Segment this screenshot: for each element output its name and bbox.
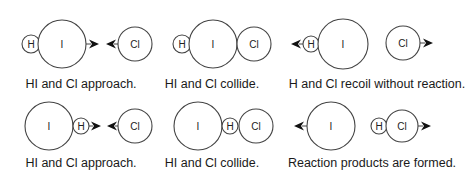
- arrow-left-icon: [291, 40, 303, 49]
- atom-label: H: [27, 39, 34, 50]
- atom-label: Cl: [249, 39, 258, 50]
- panel-caption: H and Cl recoil without reaction.: [289, 77, 465, 91]
- atom-i: I: [25, 102, 73, 150]
- row-unfavorable-orientation: HIClHI and Cl approach.HIClHI and Cl col…: [22, 19, 465, 91]
- arrow-right-icon: [86, 40, 99, 49]
- atom-label: I: [197, 121, 200, 132]
- atom-cl: Cl: [239, 109, 273, 143]
- panel-caption: Reaction products are formed.: [288, 156, 456, 170]
- arrow-left-icon: [106, 40, 118, 49]
- panel-caption: HI and Cl collide.: [165, 77, 260, 91]
- atom-h: H: [222, 118, 238, 134]
- arrow-right-icon: [418, 122, 431, 131]
- atom-i: I: [189, 20, 237, 68]
- atom-label: Cl: [398, 38, 407, 49]
- atom-label: Cl: [130, 39, 139, 50]
- atom-label: I: [48, 121, 51, 132]
- panel: HIClHI and Cl collide.: [165, 20, 271, 91]
- atom-cl: Cl: [118, 27, 152, 61]
- arrow-left-icon: [294, 122, 307, 131]
- atom-i: I: [38, 20, 86, 68]
- atom-cl: Cl: [118, 109, 152, 143]
- atom-label: H: [307, 39, 314, 50]
- atom-label: I: [61, 39, 64, 50]
- atom-label: I: [342, 39, 345, 50]
- panel: IHClReaction products are formed.: [288, 102, 456, 170]
- panel: HIClHI and Cl approach.: [22, 20, 152, 91]
- atom-i: I: [307, 102, 355, 150]
- atom-label: H: [178, 39, 185, 50]
- atom-label: H: [226, 121, 233, 132]
- atom-h: H: [173, 35, 191, 53]
- panel-caption: HI and Cl approach.: [25, 77, 136, 91]
- atom-h: H: [371, 118, 387, 134]
- atom-i: I: [174, 102, 222, 150]
- atom-label: I: [212, 39, 215, 50]
- atom-label: H: [77, 121, 84, 132]
- atom-i: I: [318, 19, 368, 69]
- panel-caption: HI and Cl approach.: [25, 156, 136, 170]
- arrow-right-icon: [420, 39, 433, 48]
- atom-cl: Cl: [386, 26, 420, 60]
- atom-h: H: [303, 36, 319, 52]
- panel: HIClH and Cl recoil without reaction.: [289, 19, 465, 91]
- atom-label: Cl: [130, 121, 139, 132]
- atom-label: Cl: [397, 121, 406, 132]
- panel: IHClHI and Cl approach.: [25, 102, 152, 170]
- panel: IHClHI and Cl collide.: [165, 102, 273, 170]
- atom-h: H: [73, 118, 89, 134]
- atom-h: H: [22, 35, 40, 53]
- arrow-right-icon: [89, 122, 101, 131]
- atom-cl: Cl: [386, 110, 418, 142]
- atom-cl: Cl: [237, 27, 271, 61]
- atom-label: H: [375, 121, 382, 132]
- atom-label: Cl: [251, 121, 260, 132]
- row-favorable-orientation: IHClHI and Cl approach.IHClHI and Cl col…: [25, 102, 456, 170]
- atom-label: I: [330, 121, 333, 132]
- collision-diagram: HIClHI and Cl approach.HIClHI and Cl col…: [0, 0, 466, 177]
- panel-caption: HI and Cl collide.: [165, 156, 260, 170]
- arrow-left-icon: [107, 122, 118, 131]
